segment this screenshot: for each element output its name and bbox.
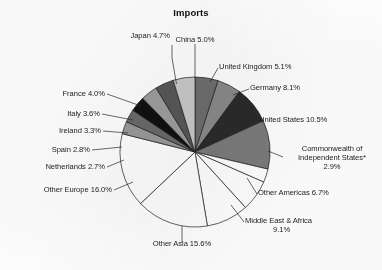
slice-label-cis-line1: Commonwealth of xyxy=(283,144,381,153)
slice-label-germany: Germany 8.1% xyxy=(250,83,300,92)
slice-label-cis-line2: Independent States* xyxy=(283,153,381,162)
slice-label-other-asia: Other Asia 15.6% xyxy=(122,239,242,248)
slice-label-united-states: United States 10.5% xyxy=(259,115,327,124)
pie-slices-group xyxy=(120,77,270,227)
slice-label-other-europe: Other Europe 16.0% xyxy=(2,185,112,194)
slice-label-united-kingdom: United Kingdom 5.1% xyxy=(219,62,292,71)
slice-label-ireland: Ireland 3.3% xyxy=(2,126,101,135)
pie-chart-figure: Imports xyxy=(0,0,382,270)
leader-line-france xyxy=(107,94,141,106)
leader-line-japan xyxy=(172,45,177,84)
slice-label-italy: Italy 3.6% xyxy=(2,109,100,118)
slice-label-spain: Spain 2.8% xyxy=(2,145,90,154)
slice-label-netherlands: Netherlands 2.7% xyxy=(2,162,105,171)
slice-label-japan: Japan 4.7% xyxy=(40,31,170,40)
slice-label-france: France 4.0% xyxy=(2,89,105,98)
slice-label-cis-value: 2.9% xyxy=(283,162,381,171)
slice-label-other-americas: Other Americas 6.7% xyxy=(258,188,329,197)
slice-label-middle-east-africa-line1: Middle East & Africa xyxy=(245,216,312,225)
leader-line-spain xyxy=(92,147,122,150)
slice-label-middle-east-africa-value: 9.1% xyxy=(273,225,290,234)
